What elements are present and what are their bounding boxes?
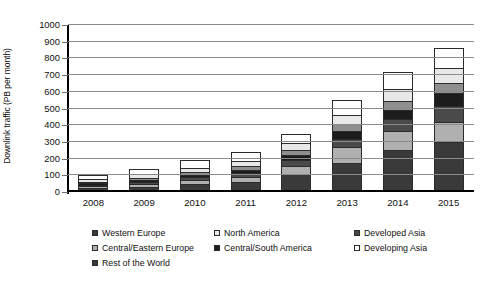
x-tick-label: 2008 xyxy=(83,197,104,208)
gridline xyxy=(68,57,474,58)
y-tick-label: 400 xyxy=(44,120,60,129)
gridline xyxy=(68,141,474,142)
y-tick-mark xyxy=(62,125,68,126)
legend-swatch xyxy=(214,230,220,236)
y-tick-mark xyxy=(62,175,68,176)
y-tick-label: 900 xyxy=(44,37,60,46)
bar-segment xyxy=(332,147,362,163)
gridline xyxy=(68,158,474,159)
gridline xyxy=(68,124,474,125)
bar-2010[interactable] xyxy=(180,160,210,192)
y-tick-label: 800 xyxy=(44,54,60,63)
chart-legend: Western EuropeNorth AmericaDeveloped Asi… xyxy=(92,228,472,274)
gridline xyxy=(68,174,474,175)
gridline xyxy=(68,74,474,75)
y-tick-mark xyxy=(62,192,68,193)
legend-swatch xyxy=(354,245,360,251)
bar-segment xyxy=(434,93,464,106)
x-axis-baseline xyxy=(68,190,474,192)
bar-segment xyxy=(383,150,413,192)
legend-label: North America xyxy=(224,228,280,238)
bar-segment xyxy=(332,124,362,131)
y-tick-label: 700 xyxy=(44,70,60,79)
legend-swatch xyxy=(354,230,360,236)
plot-area xyxy=(68,25,474,192)
bar-segment xyxy=(180,160,210,168)
bar-segment xyxy=(332,115,362,125)
bar-segment xyxy=(281,143,311,150)
gridline xyxy=(68,41,474,42)
y-tick-mark xyxy=(62,75,68,76)
gridline xyxy=(68,91,474,92)
y-tick-mark xyxy=(62,58,68,59)
legend-swatch xyxy=(214,245,220,251)
y-tick-label: 600 xyxy=(44,87,60,96)
legend-swatch xyxy=(92,230,98,236)
x-tick-label: 2009 xyxy=(133,197,154,208)
bar-2009[interactable] xyxy=(129,169,159,192)
y-tick-label: 500 xyxy=(44,104,60,113)
legend-label: Western Europe xyxy=(102,228,165,238)
x-tick-label: 2011 xyxy=(235,197,256,208)
bar-segment xyxy=(332,163,362,192)
legend-item[interactable]: Western Europe xyxy=(92,228,165,238)
legend-item[interactable]: Developing Asia xyxy=(354,243,427,253)
y-axis-tick-labels: 01002003004005006007008009001000 xyxy=(0,25,63,192)
bar-segment xyxy=(434,142,464,192)
y-tick-label: 200 xyxy=(44,154,60,163)
bar-segment xyxy=(434,68,464,82)
gridline xyxy=(68,24,474,25)
x-tick-label: 2012 xyxy=(286,197,307,208)
bar-segment xyxy=(332,131,362,139)
bar-2015[interactable] xyxy=(434,48,464,192)
y-tick-label: 300 xyxy=(44,137,60,146)
x-tick-label: 2013 xyxy=(336,197,357,208)
y-tick-mark xyxy=(62,25,68,26)
x-tick-label: 2010 xyxy=(184,197,205,208)
legend-swatch xyxy=(92,245,98,251)
legend-item[interactable]: Rest of the World xyxy=(92,258,170,268)
y-tick-label: 0 xyxy=(55,187,60,196)
gridline xyxy=(68,108,474,109)
legend-item[interactable]: Central/South America xyxy=(214,243,312,253)
bar-2012[interactable] xyxy=(281,134,311,192)
y-tick-mark xyxy=(62,109,68,110)
chart-container: Downlink traffic (PB per month) 01002003… xyxy=(0,0,492,287)
y-tick-mark xyxy=(62,142,68,143)
y-tick-label: 1000 xyxy=(39,20,60,29)
bar-group xyxy=(68,25,474,192)
legend-item[interactable]: Developed Asia xyxy=(354,228,425,238)
legend-label: Central/Eastern Europe xyxy=(102,243,194,253)
x-tick-label: 2014 xyxy=(387,197,408,208)
legend-item[interactable]: Central/Eastern Europe xyxy=(92,243,194,253)
x-tick-label: 2015 xyxy=(438,197,459,208)
y-tick-mark xyxy=(62,159,68,160)
legend-label: Developed Asia xyxy=(364,228,425,238)
legend-swatch xyxy=(92,260,98,266)
legend-label: Central/South America xyxy=(224,243,312,253)
y-tick-mark xyxy=(62,42,68,43)
y-tick-mark xyxy=(62,92,68,93)
bar-segment xyxy=(281,166,311,174)
bar-2013[interactable] xyxy=(332,100,362,192)
bar-segment xyxy=(383,119,413,131)
legend-item[interactable]: North America xyxy=(214,228,280,238)
legend-label: Developing Asia xyxy=(364,243,427,253)
legend-label: Rest of the World xyxy=(102,258,170,268)
x-axis-tick-labels: 20082009201020112012201320142015 xyxy=(68,197,474,213)
y-tick-label: 100 xyxy=(44,171,60,180)
bar-segment xyxy=(383,110,413,120)
